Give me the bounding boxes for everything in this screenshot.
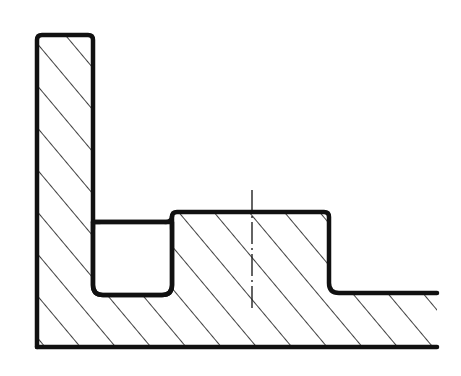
hatch-fill — [37, 35, 437, 347]
drawing-canvas — [0, 0, 461, 376]
cross-section-drawing — [0, 0, 461, 376]
pocket — [96, 225, 170, 293]
